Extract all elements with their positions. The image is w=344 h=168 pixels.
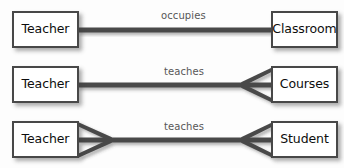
entity-box-teacher-2[interactable]: Teacher bbox=[12, 66, 79, 103]
connector-occupies bbox=[77, 28, 272, 33]
entity-box-classroom[interactable]: Classroom bbox=[271, 11, 338, 48]
entity-label-teacher-3: Teacher bbox=[22, 133, 70, 146]
relationship-label-occupies: occupies bbox=[161, 11, 206, 21]
entity-box-teacher-1[interactable]: Teacher bbox=[12, 11, 79, 48]
entity-box-courses[interactable]: Courses bbox=[271, 66, 338, 103]
entity-label-student: Student bbox=[280, 133, 329, 146]
entity-box-student[interactable]: Student bbox=[271, 121, 338, 158]
crowsfoot-student-many bbox=[241, 123, 272, 158]
entity-label-courses: Courses bbox=[280, 78, 329, 91]
er-diagram-canvas: Teacher Classroom occupies Teacher Cours… bbox=[0, 0, 344, 168]
entity-label-teacher-2: Teacher bbox=[22, 78, 70, 91]
crowsfoot-teacher-many bbox=[79, 123, 112, 158]
relationship-label-teaches-courses: teaches bbox=[164, 67, 204, 77]
entity-label-classroom: Classroom bbox=[272, 23, 336, 36]
crowsfoot-courses-many bbox=[241, 68, 272, 103]
entity-label-teacher-1: Teacher bbox=[22, 23, 70, 36]
entity-box-teacher-3[interactable]: Teacher bbox=[12, 121, 79, 158]
relationship-label-teaches-student: teaches bbox=[164, 122, 204, 132]
